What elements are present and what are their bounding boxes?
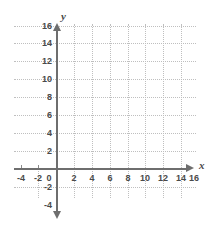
gridline-vertical-x14: [181, 24, 182, 198]
y-tick-label-10: 10: [36, 75, 52, 84]
x-tick-label-14: 14: [174, 174, 188, 183]
x-tick-label-neg4: -4: [13, 174, 29, 183]
x-tick-label-16: 16: [187, 174, 201, 183]
gridline-vertical-x2: [74, 24, 75, 198]
x-tick-label-12: 12: [156, 174, 170, 183]
y-tick-label-14: 14: [36, 39, 52, 48]
y-axis-arrow-up: [53, 23, 61, 31]
x-axis-arrow-right: [186, 164, 194, 172]
y-tick-label-6: 6: [36, 111, 52, 120]
x-tick-label-6: 6: [103, 174, 117, 183]
y-axis-line: [56, 30, 58, 212]
y-tick-label-8: 8: [36, 93, 52, 102]
gridline-vertical-x6: [110, 24, 111, 198]
y-tick-label-16: 16: [36, 22, 52, 31]
x-tick-label-10: 10: [138, 174, 152, 183]
gridline-vertical-x12: [163, 24, 164, 198]
x-tick-label-2: 2: [67, 174, 81, 183]
x-tick-label-neg2: -2: [30, 174, 46, 183]
x-axis-label: x: [199, 160, 205, 171]
x-tick-label-8: 8: [121, 174, 135, 183]
gridline-vertical-x8: [128, 24, 129, 198]
y-axis-label: y: [61, 11, 66, 22]
y-tick-label-neg4: -4: [36, 201, 52, 210]
y-tick-label-4: 4: [36, 129, 52, 138]
x-tick-label-4: 4: [85, 174, 99, 183]
gridline-vertical-x10: [145, 24, 146, 198]
y-tick-label-2: 2: [36, 147, 52, 156]
coordinate-grid-graph: y x 16 14 12 10 8 6 4 2 -2 -4 0 -4 -2 2 …: [0, 0, 218, 228]
x-axis-line: [14, 168, 186, 170]
y-axis-arrow-down: [53, 211, 61, 219]
y-tick-label-neg2: -2: [36, 183, 52, 192]
gridline-vertical-x4: [92, 24, 93, 198]
y-tick-label-12: 12: [36, 57, 52, 66]
